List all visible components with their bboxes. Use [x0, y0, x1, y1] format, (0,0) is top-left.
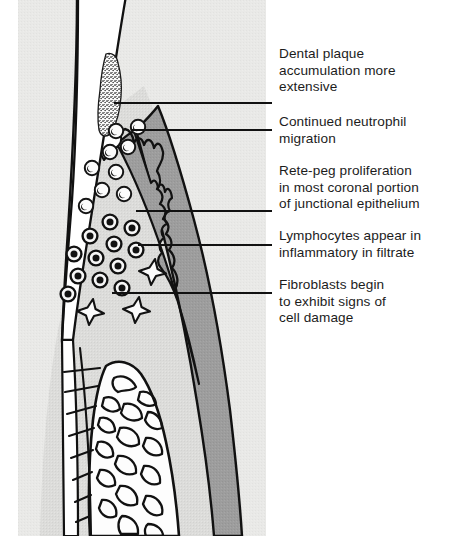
callout-dental-plaque: Dental plaque accumulation more extensiv…	[279, 46, 467, 96]
callout-continued-neutrophil-migration: Continued neutrophil migration	[279, 114, 467, 147]
callout-label-column: Dental plaque accumulation more extensiv…	[266, 0, 467, 551]
figure-root: Dental plaque accumulation more extensiv…	[0, 0, 467, 551]
anatomical-illustration-panel	[18, 0, 266, 536]
tooth-root	[62, 340, 78, 536]
callout-lymphocytes-infiltrate: Lymphocytes appear in inflammatory in fi…	[279, 228, 467, 261]
periodontium-cross-section-diagram	[18, 0, 266, 536]
callout-fibroblast-cell-damage: Fibroblasts begin to exhibit signs of ce…	[279, 277, 467, 327]
callout-rete-peg-proliferation: Rete-peg proliferation in most coronal p…	[279, 163, 467, 213]
